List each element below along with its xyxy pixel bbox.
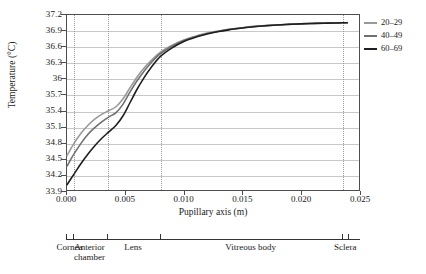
y-axis-tick-label: 35.1 (46, 122, 62, 131)
y-axis-tick-label: 36.9 (46, 26, 62, 35)
anatomy-region-label: Sclera (305, 242, 385, 252)
series-line (67, 23, 347, 185)
legend-label: 60–69 (381, 44, 402, 53)
anatomy-region-label: Vitreous body (211, 242, 291, 252)
y-axis-tick-label: 34.2 (46, 170, 62, 179)
anatomy-tick (348, 234, 349, 240)
x-axis-tick-label: 0.010 (154, 194, 214, 204)
x-axis-tick-label: 0.005 (95, 194, 155, 204)
anatomy-axis-line (66, 239, 360, 240)
y-axis-tick-label: 34.8 (46, 138, 62, 147)
anatomy-scale-bar: CorneaAnterior chamberLensVitreous bodyS… (66, 233, 360, 273)
anatomy-tick (160, 234, 161, 240)
x-axis-tick-label: 0.020 (271, 194, 331, 204)
series-line (67, 23, 347, 166)
y-axis-tick-label: 35.4 (46, 106, 62, 115)
legend-color-swatch (364, 35, 377, 37)
legend-item[interactable]: 60–69 (364, 42, 402, 55)
temperature-pupillary-axis-chart: Temperature (°C) 37.236.936.636.33635.73… (0, 0, 426, 274)
data-series-layer (67, 15, 359, 190)
x-axis-tick-label: 0.015 (212, 194, 272, 204)
y-axis-tick-label: 36.6 (46, 42, 62, 51)
y-axis-tick-label: 37.2 (46, 10, 62, 19)
x-axis-tick-label: 0.000 (36, 194, 96, 204)
legend-label: 20–29 (381, 18, 402, 27)
plot-area (66, 14, 360, 191)
anatomy-tick (66, 234, 67, 240)
anatomy-tick (107, 234, 108, 240)
legend: 20–2940–4960–69 (364, 16, 402, 55)
y-axis-tick-label: 36.3 (46, 58, 62, 67)
y-axis-tick-label: 35.7 (46, 90, 62, 99)
series-line (67, 23, 347, 156)
legend-color-swatch (364, 22, 377, 24)
y-axis-title: Temperature (°C) (7, 15, 17, 135)
legend-label: 40–49 (381, 31, 402, 40)
x-axis-title: Pupillary axis (m) (66, 207, 360, 217)
y-axis-tick-label: 34.5 (46, 154, 62, 163)
legend-color-swatch (364, 48, 377, 50)
x-axis-tick-label: 0.025 (330, 194, 390, 204)
anatomy-region-label: Lens (93, 242, 173, 252)
anatomy-tick (73, 234, 74, 240)
legend-item[interactable]: 20–29 (364, 16, 402, 29)
anatomy-tick (342, 234, 343, 240)
legend-item[interactable]: 40–49 (364, 29, 402, 42)
